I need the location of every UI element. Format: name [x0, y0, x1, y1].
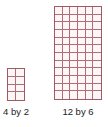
- grid-cell: [63, 22, 71, 30]
- grid-cell: [78, 22, 86, 30]
- grid-cell: [86, 76, 94, 84]
- grid-cell: [63, 15, 71, 23]
- grid-cell: [78, 84, 86, 92]
- grid-cell: [70, 61, 78, 69]
- grid-cell: [70, 45, 78, 53]
- grid-cell: [55, 53, 63, 61]
- grid-cell: [86, 15, 94, 23]
- grid-cell: [63, 68, 71, 76]
- grid-cell: [78, 68, 86, 76]
- label-4-by-2: 4 by 2: [0, 106, 32, 117]
- grid-cell: [78, 38, 86, 46]
- label-12-by-6: 12 by 6: [52, 106, 104, 117]
- grid-cell: [70, 53, 78, 61]
- grid-cell: [63, 53, 71, 61]
- grid-cell: [63, 76, 71, 84]
- grid-cell: [63, 84, 71, 92]
- grid-cell: [55, 61, 63, 69]
- grid-cell: [93, 68, 101, 76]
- grid-cell: [8, 69, 16, 77]
- grid-cell: [70, 91, 78, 99]
- grid-cell: [63, 61, 71, 69]
- grid-cell: [86, 30, 94, 38]
- grid-cell: [93, 45, 101, 53]
- grid-cell: [55, 84, 63, 92]
- grid-cell: [78, 61, 86, 69]
- grid-12-by-6: [54, 6, 102, 100]
- grid-cell: [63, 30, 71, 38]
- grid-cell: [70, 68, 78, 76]
- grid-4-by-2: [7, 68, 25, 101]
- grid-cell: [78, 15, 86, 23]
- grid-cell: [8, 77, 16, 85]
- grid-cell: [55, 68, 63, 76]
- grid-cell: [8, 85, 16, 93]
- grid-cell: [16, 92, 24, 100]
- grid-cell: [93, 30, 101, 38]
- grid-cell: [86, 84, 94, 92]
- grid-cell: [86, 68, 94, 76]
- grid-cell: [93, 38, 101, 46]
- grid-cell: [63, 38, 71, 46]
- grid-cell: [78, 7, 86, 15]
- grid-cell: [78, 45, 86, 53]
- grid-cell: [93, 76, 101, 84]
- grid-cell: [93, 61, 101, 69]
- grid-cell: [86, 38, 94, 46]
- grid-cell: [78, 53, 86, 61]
- grid-cell: [86, 7, 94, 15]
- grid-cell: [86, 53, 94, 61]
- grid-cell: [93, 22, 101, 30]
- grid-cell: [8, 92, 16, 100]
- grid-cell: [55, 76, 63, 84]
- grid-cell: [78, 76, 86, 84]
- grid-cell: [16, 77, 24, 85]
- grid-cell: [70, 7, 78, 15]
- grid-cell: [63, 7, 71, 15]
- grid-cell: [55, 45, 63, 53]
- grid-cell: [70, 22, 78, 30]
- grid-cell: [70, 30, 78, 38]
- grid-cell: [55, 91, 63, 99]
- grid-cell: [70, 84, 78, 92]
- grid-cell: [70, 15, 78, 23]
- grid-cell: [86, 61, 94, 69]
- grid-cell: [70, 76, 78, 84]
- grid-cell: [16, 85, 24, 93]
- grid-cell: [55, 38, 63, 46]
- grid-cell: [16, 69, 24, 77]
- grid-cell: [93, 84, 101, 92]
- grid-cell: [93, 15, 101, 23]
- grid-cell: [78, 30, 86, 38]
- grid-cell: [86, 45, 94, 53]
- grid-cell: [86, 22, 94, 30]
- grid-cell: [78, 91, 86, 99]
- grid-cell: [63, 91, 71, 99]
- grid-cell: [86, 91, 94, 99]
- grid-cell: [55, 15, 63, 23]
- grid-cell: [63, 45, 71, 53]
- grid-cell: [70, 38, 78, 46]
- grid-cell: [55, 30, 63, 38]
- grid-cell: [93, 7, 101, 15]
- grid-cell: [93, 91, 101, 99]
- grid-cell: [55, 7, 63, 15]
- grid-cell: [55, 22, 63, 30]
- grid-cell: [93, 53, 101, 61]
